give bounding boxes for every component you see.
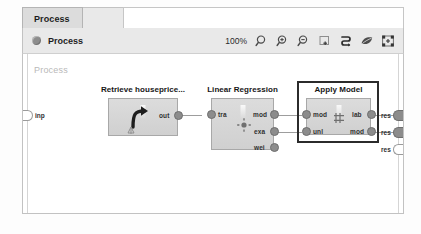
port-linreg-mod[interactable] xyxy=(270,110,279,119)
port-linreg-tra[interactable] xyxy=(207,110,216,119)
fit-screen-icon[interactable] xyxy=(381,34,395,48)
process-result-port-res-3[interactable] xyxy=(393,144,403,155)
port-apply-mod-out-label: mod xyxy=(350,128,364,135)
process-result-port-res-2[interactable] xyxy=(393,127,403,138)
circle-icon xyxy=(32,36,41,45)
operator-apply-model[interactable]: Apply Model mod unl lab mod xyxy=(306,98,371,135)
process-result-port-res-1[interactable] xyxy=(393,110,403,121)
port-apply-mod-in[interactable] xyxy=(302,110,311,119)
operator-linear-regression-title: Linear Regression xyxy=(207,85,278,94)
toolbar-buttons: 100% xyxy=(225,34,395,48)
panel-title-group: Process xyxy=(32,36,83,46)
tab-strip-empty-area xyxy=(123,7,404,29)
zoom-out-icon[interactable] xyxy=(297,34,311,48)
subprocess-left-wall xyxy=(27,54,28,214)
port-linreg-wei-label: wei xyxy=(254,144,265,151)
port-linreg-tra-label: tra xyxy=(218,111,227,118)
auto-arrange-icon[interactable] xyxy=(339,34,353,48)
port-apply-mod-out[interactable] xyxy=(367,127,376,136)
port-retrieve-out[interactable] xyxy=(174,111,183,120)
canvas-watermark-label: Process xyxy=(34,65,68,75)
port-apply-mod-in-label: mod xyxy=(313,111,327,118)
process-input-port-inp-label: inp xyxy=(35,112,45,119)
port-apply-lab-out-label: lab xyxy=(352,111,362,118)
operator-linear-regression-body[interactable] xyxy=(211,98,274,150)
process-result-port-res-2-label: res xyxy=(381,129,391,136)
process-canvas[interactable]: Process inp Retrieve houseprice... xyxy=(22,54,404,214)
port-linreg-wei[interactable] xyxy=(270,143,279,152)
port-apply-lab-out[interactable] xyxy=(367,110,376,119)
operator-retrieve-houseprices[interactable]: Retrieve houseprice... out xyxy=(108,98,178,136)
operator-linear-regression[interactable]: Linear Regression tra mod exa wei xyxy=(211,98,274,150)
process-result-port-res-1-label: res xyxy=(381,112,391,119)
panel-title: Process xyxy=(48,36,83,46)
process-result-port-res-3-label: res xyxy=(381,146,391,153)
process-editor-window: Process Process 100% xyxy=(0,0,421,234)
tab-process[interactable]: Process xyxy=(22,7,83,29)
operator-apply-model-title: Apply Model xyxy=(314,85,362,94)
port-apply-unl-in-label: unl xyxy=(313,128,323,135)
operator-retrieve-houseprices-title: Retrieve houseprice... xyxy=(101,85,185,94)
zoom-level-label: 100% xyxy=(225,36,247,46)
process-input-port-inp[interactable] xyxy=(23,110,33,121)
port-linreg-exa-label: exa xyxy=(254,128,265,135)
port-linreg-mod-label: mod xyxy=(253,111,267,118)
add-panel-icon[interactable] xyxy=(318,34,332,48)
port-apply-unl-in[interactable] xyxy=(302,127,311,136)
zoom-in-icon[interactable] xyxy=(276,34,290,48)
zoom-reset-icon[interactable] xyxy=(255,34,269,48)
port-retrieve-out-label: out xyxy=(159,112,169,119)
process-toolbar: Process 100% xyxy=(22,28,404,54)
port-linreg-exa[interactable] xyxy=(270,127,279,136)
leaf-icon[interactable] xyxy=(360,34,374,48)
tab-process-label: Process xyxy=(34,14,70,24)
tab-strip: Process xyxy=(22,7,404,28)
